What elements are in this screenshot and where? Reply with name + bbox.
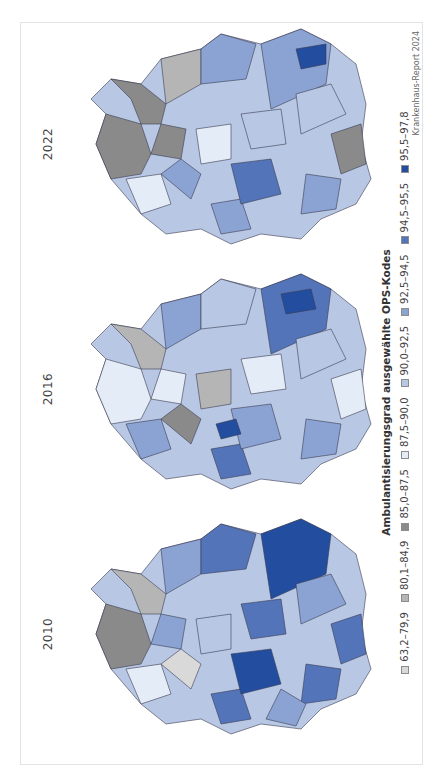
legend-item: 85,0–87,5 bbox=[399, 469, 410, 531]
legend-label: 85,0–87,5 bbox=[399, 469, 410, 519]
legend-swatch bbox=[401, 523, 409, 531]
legend-swatch bbox=[401, 165, 409, 173]
legend-swatch bbox=[401, 594, 409, 602]
figure-canvas: 2010 bbox=[0, 0, 444, 783]
legend-label: 80,1–84,9 bbox=[399, 541, 410, 591]
legend-item: 80,1–84,9 bbox=[399, 541, 410, 603]
legend-item: 94,5–95,5 bbox=[399, 183, 410, 245]
legend-swatch bbox=[401, 666, 409, 674]
legend-label: 63,2–79,9 bbox=[399, 612, 410, 662]
legend-label: 95,5–97,8 bbox=[399, 111, 410, 161]
germany-district-map-2016 bbox=[71, 259, 381, 519]
legend-item: 92,5–94,5 bbox=[399, 254, 410, 316]
legend-swatch bbox=[401, 380, 409, 388]
source-credit: Krankenhaus-Report 2024 bbox=[412, 31, 421, 135]
legend-swatch bbox=[401, 451, 409, 459]
legend: 63,2–79,9 80,1–84,9 85,0–87,5 87,5–90,0 … bbox=[399, 21, 410, 764]
legend-label: 92,5–94,5 bbox=[399, 254, 410, 304]
panel-year-label: 2022 bbox=[41, 14, 55, 274]
legend-label: 94,5–95,5 bbox=[399, 183, 410, 233]
legend-swatch bbox=[401, 236, 409, 244]
legend-label: 90,0–92,5 bbox=[399, 326, 410, 376]
germany-district-map-2010 bbox=[71, 504, 381, 764]
legend-item: 87,5–90,0 bbox=[399, 398, 410, 460]
legend-title: Ambulantisierungsgrad ausgewählte OPS-Ko… bbox=[380, 21, 392, 764]
panel-year-label: 2010 bbox=[41, 504, 55, 764]
map-panel-2022: 2022 bbox=[21, 14, 381, 274]
figure-frame: 2010 bbox=[20, 22, 423, 765]
germany-district-map-2022 bbox=[71, 14, 381, 274]
legend-item: 95,5–97,8 bbox=[399, 111, 410, 173]
legend-item: 63,2–79,9 bbox=[399, 612, 410, 674]
panel-year-label: 2016 bbox=[41, 259, 55, 519]
legend-label: 87,5–90,0 bbox=[399, 398, 410, 448]
map-panel-2010: 2010 bbox=[21, 504, 381, 764]
legend-swatch bbox=[401, 308, 409, 316]
map-panel-2016: 2016 bbox=[21, 259, 381, 519]
legend-item: 90,0–92,5 bbox=[399, 326, 410, 388]
